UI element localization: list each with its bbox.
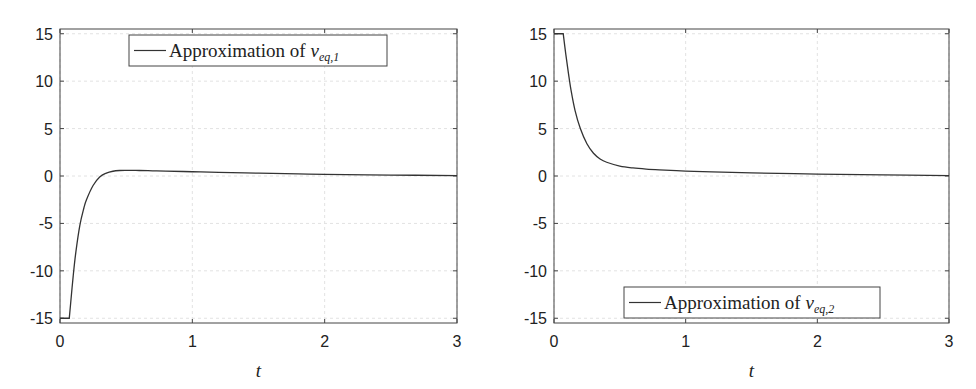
grid-lines (60, 29, 457, 323)
y-tick-label: -15 (30, 310, 53, 327)
legend-label: Approximation of νeq,2 (664, 292, 834, 316)
y-tick-label: 15 (529, 26, 547, 43)
x-tick-label: 3 (945, 333, 954, 350)
chart-panel-1: 0123-15-10-5051015tApproximation of νeq,… (30, 26, 462, 381)
y-tick-label: 0 (44, 168, 53, 185)
x-tick-label: 2 (813, 333, 822, 350)
x-tick-label: 2 (320, 333, 329, 350)
axes-frame (554, 29, 949, 323)
x-axis-label: t (256, 360, 262, 381)
chart-canvas: 0123-15-10-5051015tApproximation of νeq,… (0, 0, 976, 389)
series-line (554, 34, 949, 176)
legend: Approximation of νeq,2 (624, 287, 880, 318)
y-tick-label: 0 (538, 168, 547, 185)
legend-label: Approximation of νeq,1 (169, 40, 339, 64)
x-tick-label: 0 (56, 333, 65, 350)
y-tick-label: 15 (35, 26, 53, 43)
legend: Approximation of νeq,1 (129, 35, 387, 66)
series-line (60, 170, 457, 318)
x-axis-label: t (749, 360, 755, 381)
x-tick-label: 1 (188, 333, 197, 350)
figure: 0123-15-10-5051015tApproximation of νeq,… (0, 0, 976, 389)
chart-panel-2: 0123-15-10-5051015tApproximation of νeq,… (524, 26, 954, 381)
y-tick-label: 5 (538, 121, 547, 138)
x-tick-label: 1 (681, 333, 690, 350)
y-tick-label: -15 (524, 310, 547, 327)
y-tick-label: 10 (529, 73, 547, 90)
y-tick-label: 5 (44, 121, 53, 138)
y-tick-label: -10 (30, 263, 53, 280)
y-tick-label: -5 (39, 215, 53, 232)
grid-lines (554, 29, 949, 323)
x-tick-label: 0 (550, 333, 559, 350)
x-tick-label: 3 (453, 333, 462, 350)
y-tick-label: 10 (35, 73, 53, 90)
y-tick-label: -10 (524, 263, 547, 280)
y-tick-label: -5 (533, 215, 547, 232)
x-axis-ticks: 0123 (56, 29, 462, 350)
